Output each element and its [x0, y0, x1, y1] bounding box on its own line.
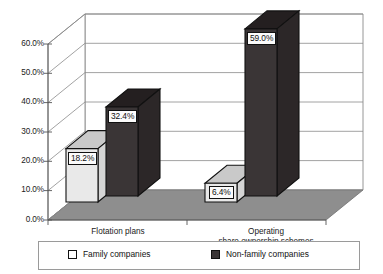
data-label-nonfamily-flotation: 32.4%	[108, 110, 137, 123]
y-tick-label-40: 40.0%	[0, 97, 44, 106]
data-label-family-flotation: 18.2%	[68, 152, 97, 165]
y-tick-label-60: 60.0%	[0, 39, 44, 48]
category-label-flotation-plans: Flotation plans	[68, 227, 168, 237]
legend-label-nonfamily-companies: Non-family companies	[226, 249, 309, 259]
bar-nonfamily-flotation[interactable]	[106, 89, 160, 196]
category-line-1: Flotation plans	[91, 227, 144, 236]
legend: Family companies Non-family companies	[38, 241, 360, 270]
y-tick-label-10: 10.0%	[0, 185, 44, 194]
y-tick-label-0: 0.0%	[0, 215, 44, 224]
bar-chart: 60.0% 50.0% 40.0% 30.0% 20.0% 10.0% 0.0%…	[0, 0, 383, 274]
y-tick-label-30: 30.0%	[0, 127, 44, 136]
category-line-1: Operating	[248, 227, 284, 236]
y-tick-label-20: 20.0%	[0, 156, 44, 165]
legend-label-family-companies: Family companies	[83, 249, 151, 259]
light-square-icon	[68, 250, 77, 259]
legend-item-family-companies[interactable]: Family companies	[68, 249, 151, 259]
data-label-family-schemes: 6.4%	[209, 186, 234, 199]
legend-item-nonfamily-companies[interactable]: Non-family companies	[211, 249, 309, 259]
dark-square-icon	[211, 250, 220, 259]
y-tick-label-50: 50.0%	[0, 68, 44, 77]
data-label-nonfamily-schemes: 59.0%	[247, 32, 276, 45]
